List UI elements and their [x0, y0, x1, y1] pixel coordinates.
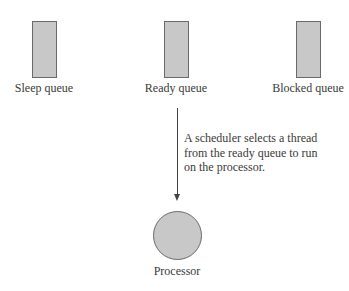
ready-queue-label: Ready queue	[145, 81, 207, 96]
scheduler-arrow-line	[177, 108, 178, 196]
ready-queue-box	[164, 21, 189, 78]
arrow-down-icon	[174, 194, 180, 201]
sleep-queue-label: Sleep queue	[15, 81, 73, 96]
blocked-queue-label: Blocked queue	[272, 81, 344, 96]
annotation-line-3: on the processor.	[184, 160, 318, 175]
processor-label: Processor	[154, 264, 201, 279]
scheduler-annotation: A scheduler selects a thread from the re…	[184, 131, 318, 175]
annotation-line-2: from the ready queue to run	[184, 146, 318, 161]
blocked-queue-box	[296, 21, 321, 78]
annotation-line-1: A scheduler selects a thread	[184, 131, 318, 146]
sleep-queue-box	[32, 21, 57, 78]
processor-circle	[153, 211, 202, 260]
